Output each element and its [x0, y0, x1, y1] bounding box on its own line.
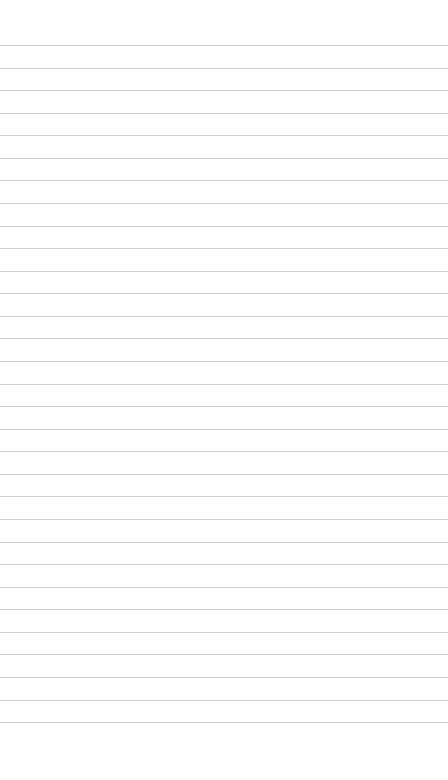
note-text-area[interactable] [0, 0, 448, 780]
lined-note-page[interactable] [0, 0, 448, 780]
